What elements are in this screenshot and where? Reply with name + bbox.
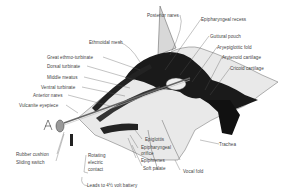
label-soft-palate: Soft palate — [143, 166, 166, 171]
label-guttural-pouch: Guttural pouch — [210, 34, 241, 39]
label-rotating: Rotating — [88, 153, 106, 158]
label-epiglottis: Epiglottis — [145, 137, 164, 142]
label-trachea: Trachea — [219, 142, 236, 147]
label-rubber-cushion: Rubber cushion — [16, 152, 49, 157]
switch-shape — [70, 134, 73, 146]
label-vulcanite-eyepiece: Vulcanite eyepiece — [19, 103, 58, 108]
label-orifice: orifice — [141, 151, 154, 156]
label-posterior-nares: Posterior nares — [147, 13, 179, 18]
label-electric: electric — [88, 160, 103, 165]
label-sliding-switch: Sliding switch — [16, 160, 45, 165]
label-vocal-fold: Vocal fold — [183, 169, 203, 174]
label-ethmoidal-mesh: Ethmoidal mesh — [89, 40, 123, 45]
label-epipharyngeal-recess: Epipharyngeal recess — [201, 17, 246, 22]
label-dorsal-turbinate: Dorsal turbinate — [47, 64, 80, 69]
label-aryepiglottic-fold: Aryepiglottic fold — [217, 45, 252, 50]
label-battery-leads: Leads to 4½ volt battery — [87, 183, 137, 188]
label-middle-meatus: Middle meatus — [47, 75, 78, 80]
label-great-ethmo-turbinate: Great ethmo-turbinate — [47, 55, 93, 60]
anatomy-diagram: Posterior nares Epipharyngeal recess Eth… — [0, 0, 287, 193]
eyepiece-shape — [56, 120, 64, 132]
eye-symbol-icon — [44, 120, 52, 130]
label-contact: contact — [88, 167, 103, 172]
label-epipharyngeal: Epipharyngeal — [141, 145, 171, 150]
label-anterior-nares: Anterior nares — [33, 93, 63, 98]
label-epiphrenes: Epiphrenes — [141, 158, 165, 163]
label-cricoid-cartilage: Cricoid cartilage — [230, 66, 264, 71]
label-ventral-turbinate: Ventral turbinate — [41, 85, 75, 90]
label-arytenoid-cartilage: Arytenoid cartilage — [222, 55, 261, 60]
